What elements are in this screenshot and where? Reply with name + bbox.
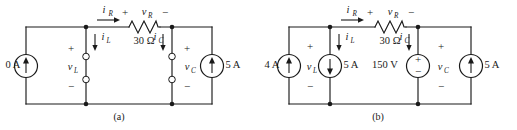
label-vc-plus: + xyxy=(184,42,190,54)
label-vl-minus: − xyxy=(68,80,74,92)
label-vc-minus: − xyxy=(438,80,444,92)
label-ic-var: i xyxy=(400,31,403,42)
source-plus-sign: + xyxy=(415,53,421,65)
label-vl-sub: L xyxy=(73,67,78,75)
node-dot xyxy=(170,25,175,30)
current-source-5a-inductor xyxy=(319,55,342,78)
circuit-diagram-svg: 0 A 5 A 30 Ω i R + v R − i L + v L xyxy=(0,0,517,130)
terminal-bottom xyxy=(83,76,90,83)
label-ir-var: i xyxy=(347,4,350,15)
label-vr-minus: − xyxy=(408,6,414,18)
label-vl-sub: L xyxy=(312,67,317,75)
source-label-5a-inductor: 5 A xyxy=(344,59,359,70)
current-arrow-il-a xyxy=(92,34,97,51)
label-il-sub: L xyxy=(106,37,111,45)
label-il-sub: L xyxy=(350,37,355,45)
label-vr-plus: + xyxy=(367,6,373,18)
ic-arrow-head xyxy=(160,45,165,51)
current-source-4a xyxy=(278,55,301,78)
label-ic-sub: C xyxy=(159,37,164,45)
source-label-5a-right: 5 A xyxy=(485,59,500,70)
label-vl-var: v xyxy=(68,61,73,72)
terminal-top xyxy=(83,53,90,60)
label-vc-sub: C xyxy=(191,67,196,75)
node-dot xyxy=(84,102,89,107)
il-arrow-head xyxy=(92,45,97,51)
label-vl-plus: + xyxy=(68,42,74,54)
label-vr-minus: − xyxy=(162,6,168,18)
source-label-5a-right: 5 A xyxy=(226,59,241,70)
node-dot xyxy=(84,25,89,30)
circuit-a: 0 A 5 A 30 Ω i R + v R − i L + v L xyxy=(6,4,241,123)
terminal-bottom xyxy=(169,76,176,83)
label-vl-var: v xyxy=(307,61,312,72)
label-ic-var: i xyxy=(154,31,157,42)
resistor-label-30ohm: 30 Ω xyxy=(134,35,155,46)
source-label-150v: 150 V xyxy=(372,59,398,70)
caption-b: (b) xyxy=(372,111,384,123)
current-source-5a-right-b xyxy=(460,55,483,78)
label-ir-var: i xyxy=(103,4,106,15)
circuit-figure: 0 A 5 A 30 Ω i R + v R − i L + v L xyxy=(0,0,517,130)
label-vc-var: v xyxy=(438,61,443,72)
label-il-var: i xyxy=(102,31,105,42)
label-vr-var: v xyxy=(142,6,147,17)
node-dot xyxy=(416,102,421,107)
node-dot xyxy=(328,25,333,30)
label-il-var: i xyxy=(346,31,349,42)
voltage-source-150v: + − xyxy=(407,53,430,77)
il-arrow-head xyxy=(336,45,341,51)
label-ir-sub: R xyxy=(352,10,358,18)
node-dot xyxy=(328,102,333,107)
label-vc-plus: + xyxy=(438,40,444,52)
label-ir-sub: R xyxy=(108,10,114,18)
source-label-0a: 0 A xyxy=(6,59,21,70)
ir-arrow-head xyxy=(114,17,120,22)
label-vl-minus: − xyxy=(307,80,313,92)
terminal-top xyxy=(169,53,176,60)
node-dot xyxy=(416,25,421,30)
resistor-label-30ohm: 30 Ω xyxy=(380,35,401,46)
current-source-5a-right-a xyxy=(201,55,224,78)
label-vr-sub: R xyxy=(147,12,153,20)
label-ic-sub: C xyxy=(405,37,410,45)
source-minus-sign: − xyxy=(415,65,421,77)
caption-a: (a) xyxy=(113,111,124,123)
label-vc-var: v xyxy=(185,61,190,72)
current-arrow-il-b xyxy=(336,34,341,51)
label-vr-sub: R xyxy=(393,12,399,20)
ir-arrow-head xyxy=(358,17,364,22)
label-vr-var: v xyxy=(388,6,393,17)
circuit-b: + − xyxy=(265,4,500,123)
label-vl-plus: + xyxy=(307,40,313,52)
ic-arrow-head xyxy=(406,45,411,51)
node-dot xyxy=(170,102,175,107)
label-vc-sub: C xyxy=(444,67,449,75)
label-vc-minus: − xyxy=(184,80,190,92)
label-vr-plus: + xyxy=(122,6,128,18)
source-label-4a: 4 A xyxy=(265,59,280,70)
